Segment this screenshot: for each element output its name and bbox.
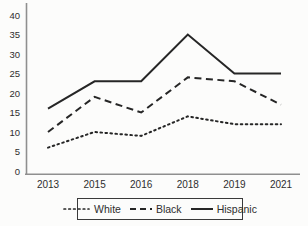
y-tick-label: 20 <box>9 88 20 99</box>
line-chart: 0510152025303540201320152016201820192021… <box>0 0 308 226</box>
x-tick-label: 2013 <box>37 179 60 190</box>
y-tick-label: 10 <box>9 127 20 138</box>
chart-legend: White Black Hispanic <box>77 198 243 220</box>
dashed-line-sample-icon <box>130 206 152 212</box>
solid-line-sample-icon <box>191 206 213 212</box>
x-tick-label: 2018 <box>177 179 200 190</box>
y-tick-label: 40 <box>9 10 20 21</box>
legend-label-white: White <box>94 204 121 215</box>
y-tick-label: 0 <box>15 166 20 177</box>
legend-item-black: Black <box>130 204 182 215</box>
y-tick-label: 25 <box>9 68 20 79</box>
dotted-line-sample-icon <box>63 206 90 212</box>
x-tick-label: 2015 <box>83 179 106 190</box>
legend-label-black: Black <box>156 204 182 215</box>
series-line-white <box>48 116 281 147</box>
x-tick-label: 2019 <box>223 179 246 190</box>
y-tick-label: 35 <box>9 29 20 40</box>
y-tick-label: 30 <box>9 49 20 60</box>
x-tick-label: 2016 <box>130 179 153 190</box>
y-tick-label: 5 <box>15 146 20 157</box>
series-line-hispanic <box>48 35 281 109</box>
legend-item-hispanic: Hispanic <box>191 204 257 215</box>
x-tick-label: 2021 <box>270 179 293 190</box>
legend-item-white: White <box>63 204 121 215</box>
line-chart-svg: 0510152025303540201320152016201820192021 <box>0 0 308 196</box>
y-tick-label: 15 <box>9 107 20 118</box>
legend-label-hispanic: Hispanic <box>217 204 257 215</box>
